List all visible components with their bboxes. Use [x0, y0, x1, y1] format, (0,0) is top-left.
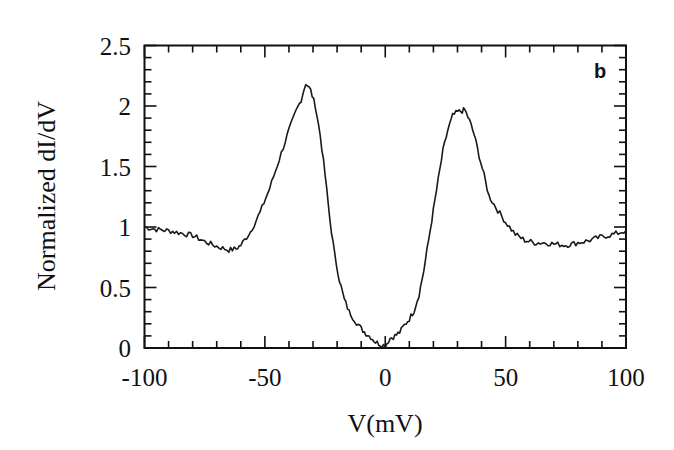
chart: 00.511.522.5 -100-50050100 b V(mV) Norma…	[0, 0, 674, 450]
plot-frame	[145, 46, 627, 349]
data-line	[145, 85, 627, 348]
y-tick-label: 0	[119, 335, 132, 362]
y-tick-label: 2	[119, 93, 132, 120]
x-axis-label: V(mV)	[347, 409, 422, 438]
x-tick-label: -50	[248, 364, 281, 391]
x-tick-label: 0	[379, 364, 392, 391]
y-axis-label: Normalized dI/dV	[32, 101, 61, 291]
x-tick-label: 50	[493, 364, 518, 391]
x-tick-label: 100	[607, 364, 645, 391]
y-tick-label: 1.5	[100, 154, 131, 181]
x-tick-label: -100	[122, 364, 168, 391]
y-tick-label: 1	[119, 214, 132, 241]
panel-label: b	[594, 60, 606, 82]
x-tick-labels: -100-50050100	[122, 364, 645, 391]
y-tick-labels: 00.511.522.5	[100, 33, 131, 363]
y-tick-label: 0.5	[100, 275, 131, 302]
axis-ticks	[145, 46, 627, 349]
y-tick-label: 2.5	[100, 33, 131, 60]
